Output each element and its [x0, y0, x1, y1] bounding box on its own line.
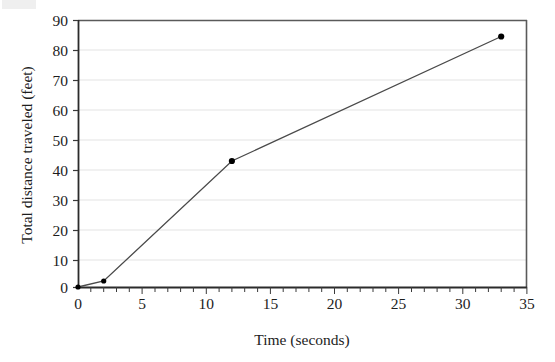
x-tick-label: 5 [138, 295, 146, 312]
y-axis-ticks [73, 21, 78, 288]
x-tick-label: 15 [263, 295, 279, 312]
x-axis-tick-labels: 0 5 10 15 20 25 30 35 [74, 295, 535, 312]
y-tick-label: 0 [60, 279, 68, 296]
data-point-marker [101, 278, 106, 283]
y-axis-title: Total distance traveled (feet) [18, 66, 36, 244]
x-tick-label: 25 [391, 295, 407, 312]
x-tick-label: 30 [455, 295, 471, 312]
x-tick-label: 10 [199, 295, 215, 312]
scan-artifact [2, 0, 36, 9]
x-axis-title: Time (seconds) [254, 331, 349, 349]
line-chart: 90 80 70 60 50 40 30 20 10 0 0 5 10 15 2… [0, 0, 555, 362]
y-tick-label: 20 [53, 222, 69, 239]
y-tick-label: 80 [53, 42, 69, 59]
chart-container: 90 80 70 60 50 40 30 20 10 0 0 5 10 15 2… [0, 0, 555, 362]
x-tick-label: 0 [74, 295, 82, 312]
y-tick-label: 70 [53, 72, 69, 89]
data-point-marker [498, 33, 504, 39]
x-tick-label: 35 [519, 295, 535, 312]
y-tick-label: 40 [53, 162, 69, 179]
y-tick-label: 10 [53, 252, 69, 269]
y-axis-tick-labels: 90 80 70 60 50 40 30 20 10 0 [53, 12, 69, 296]
y-tick-label: 60 [53, 102, 69, 119]
data-point-marker [229, 158, 235, 164]
y-tick-label: 30 [53, 192, 69, 209]
data-point-marker [75, 284, 80, 289]
y-tick-label: 50 [53, 132, 69, 149]
x-tick-label: 20 [327, 295, 343, 312]
y-tick-label: 90 [53, 12, 69, 29]
plot-background [78, 20, 527, 287]
